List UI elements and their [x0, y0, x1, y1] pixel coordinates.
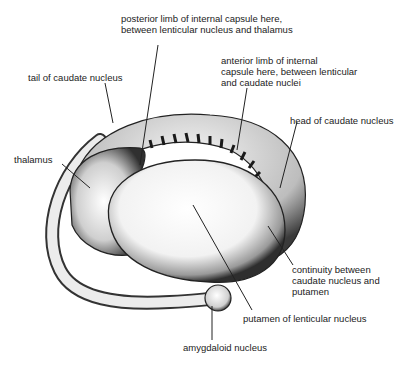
label-posterior-limb: posterior limb of internal capsule here,… [121, 13, 293, 35]
label-head-of-caudate: head of caudate nucleus [290, 115, 394, 126]
label-putamen: putamen of lenticular nucleus [243, 313, 367, 324]
label-line: posterior limb of internal capsule here, [121, 13, 293, 24]
label-tail-of-caudate: tail of caudate nucleus [28, 72, 123, 83]
label-line: capsule here, between lenticular [221, 66, 357, 77]
putamen-shape [108, 160, 285, 282]
label-line: putamen [292, 286, 380, 297]
label-line: caudate nucleus and [292, 275, 380, 286]
label-amygdaloid: amygdaloid nucleus [183, 342, 267, 353]
amygdala-shape [205, 285, 231, 311]
label-line: anterior limb of internal [221, 55, 357, 66]
label-line: and caudate nuclei [221, 77, 357, 88]
label-line: between lenticular nucleus and thalamus [121, 24, 293, 35]
label-thalamus: thalamus [14, 154, 53, 165]
label-continuity: continuity between caudate nucleus and p… [292, 264, 380, 297]
label-anterior-limb: anterior limb of internal capsule here, … [221, 55, 357, 88]
label-line: continuity between [292, 264, 380, 275]
